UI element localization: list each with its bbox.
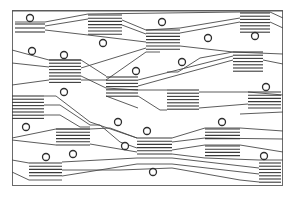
line-bundle	[88, 15, 122, 34]
node-circle-icon	[122, 143, 129, 150]
node-circle-icon	[61, 52, 68, 59]
wire	[240, 112, 283, 114]
routing-diagram	[0, 0, 296, 198]
line-bundle	[259, 163, 281, 182]
line-bundle	[29, 163, 62, 176]
wire	[12, 140, 56, 145]
line-bundle	[167, 90, 199, 109]
wire	[81, 48, 146, 68]
wire	[263, 60, 283, 64]
node-circle-icon	[252, 33, 259, 40]
wire	[62, 158, 259, 168]
wire	[45, 30, 146, 42]
line-bundle	[240, 13, 270, 32]
wire	[270, 22, 283, 28]
wire	[180, 22, 240, 33]
node-circle-icon	[100, 40, 107, 47]
diagram-canvas	[0, 0, 296, 198]
wire	[122, 18, 240, 30]
wire	[45, 19, 88, 26]
node-circle-icon	[159, 19, 166, 26]
node-circle-icon	[133, 68, 140, 75]
line-bundle	[137, 138, 172, 154]
node-circle-icon	[219, 119, 226, 126]
node-circle-icon	[27, 15, 34, 22]
line-bundle	[146, 30, 180, 49]
node-circle-icon	[261, 153, 268, 160]
wire	[122, 25, 146, 34]
node-circle-icon	[43, 154, 50, 161]
wire	[106, 96, 138, 108]
node-circle-icon	[29, 48, 36, 55]
node-circle-icon	[150, 169, 157, 176]
node-circle-icon	[61, 89, 68, 96]
line-bundle	[205, 146, 240, 156]
line-bundles	[12, 13, 281, 182]
line-bundle	[15, 24, 45, 32]
wire	[12, 160, 29, 163]
node-circle-icon	[179, 59, 186, 66]
line-bundle	[49, 60, 81, 82]
wire	[62, 168, 259, 182]
wire	[12, 63, 49, 67]
node-circle-icon	[70, 151, 77, 158]
wire	[180, 46, 283, 54]
line-bundle	[205, 129, 240, 139]
line-bundle	[233, 52, 263, 71]
line-bundle	[12, 96, 44, 118]
wire	[12, 80, 49, 85]
wire	[138, 96, 167, 110]
line-bundle	[56, 129, 90, 145]
node-circle-icon	[23, 124, 30, 131]
node-circle-icon	[115, 119, 122, 126]
wire	[138, 56, 233, 80]
line-bundle	[106, 77, 138, 96]
node-circle-icon	[205, 35, 212, 42]
node-circle-icon	[144, 128, 151, 135]
wire	[199, 104, 248, 108]
node-circle-icon	[263, 84, 270, 91]
